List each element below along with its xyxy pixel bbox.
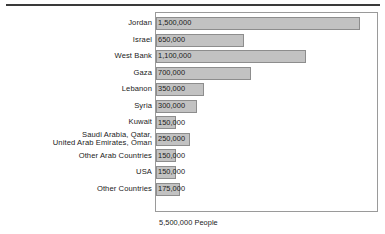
bar-row: Jordan1,500,000 <box>0 17 385 30</box>
bar-value-label: 250,000 <box>158 135 185 143</box>
bar-value-label: 150,000 <box>158 119 185 127</box>
category-label: Kuwait <box>0 118 152 126</box>
bar-row: West Bank1,100,000 <box>0 50 385 63</box>
bar-value-label: 175,000 <box>158 185 185 193</box>
bar-row: Israel650,000 <box>0 34 385 47</box>
bar-row: Saudi Arabia, Qatar, United Arab Emirate… <box>0 133 385 146</box>
bar-value-label: 700,000 <box>158 69 185 77</box>
population-bar-chart: Jordan1,500,000Israel650,000West Bank1,1… <box>0 0 385 234</box>
category-label: Other Arab Countries <box>0 152 152 160</box>
category-label: Lebanon <box>0 85 152 93</box>
category-label: Other Countries <box>0 185 152 193</box>
bar-row: Gaza700,000 <box>0 67 385 80</box>
bar-value-label: 1,500,000 <box>158 19 191 27</box>
bar-row: Lebanon350,000 <box>0 83 385 96</box>
bar-value-label: 300,000 <box>158 102 185 110</box>
bar-value-label: 150,000 <box>158 168 185 176</box>
category-label: USA <box>0 168 152 176</box>
category-label: Syria <box>0 102 152 110</box>
bar-row: Other Countries175,000 <box>0 183 385 196</box>
category-label: West Bank <box>0 52 152 60</box>
category-label: Gaza <box>0 69 152 77</box>
category-label: Jordan <box>0 19 152 27</box>
bar-rows-container: Jordan1,500,000Israel650,000West Bank1,1… <box>0 12 385 212</box>
category-label: Israel <box>0 36 152 44</box>
category-label: Saudi Arabia, Qatar, United Arab Emirate… <box>0 131 152 148</box>
bar-value-label: 650,000 <box>158 36 185 44</box>
bar-value-label: 150,000 <box>158 152 185 160</box>
bar-row: Other Arab Countries150,000 <box>0 149 385 162</box>
bar-value-label: 350,000 <box>158 85 185 93</box>
bar-value-label: 1,100,000 <box>158 52 191 60</box>
bar-row: Kuwait150,000 <box>0 116 385 129</box>
bar-row: Syria300,000 <box>0 100 385 113</box>
chart-caption: 5,500,000 People <box>159 218 218 227</box>
bar-row: USA150,000 <box>0 166 385 179</box>
